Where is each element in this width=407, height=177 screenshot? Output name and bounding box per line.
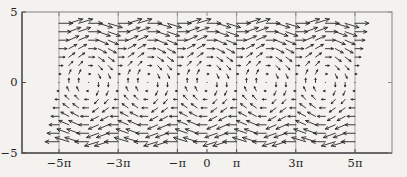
- quiver-arrow: [118, 56, 124, 58]
- quiver-arrow: [187, 120, 197, 124]
- quiver-arrow: [314, 132, 326, 135]
- quiver-arrow: [229, 115, 237, 117]
- quiver-arrow: [266, 21, 280, 25]
- quiver-arrow: [331, 99, 335, 103]
- quiver-arrow: [79, 61, 83, 65]
- quiver-arrow: [148, 65, 152, 66]
- quiver-arrow: [171, 107, 177, 109]
- quiver-arrow: [137, 78, 138, 82]
- quiver-arrow: [223, 99, 227, 103]
- quiver-arrow: [345, 49, 353, 53]
- quiver-arrow: [187, 27, 199, 32]
- quiver-arrow: [355, 21, 369, 25]
- quiver-arrow: [177, 73, 179, 74]
- quiver-arrow: [59, 21, 73, 25]
- quiver-arrow: [128, 53, 134, 57]
- quiver-dot: [118, 82, 119, 83]
- quiver-arrow: [276, 49, 284, 53]
- quiver-arrow: [325, 56, 331, 58]
- quiver-arrow: [61, 112, 69, 116]
- quiver-arrow: [280, 108, 286, 112]
- quiver-arrow: [148, 48, 156, 50]
- quiver-arrow: [87, 90, 89, 91]
- quiver-arrow: [199, 115, 207, 117]
- quiver-arrow: [325, 73, 327, 74]
- quiver-arrow: [138, 36, 148, 40]
- quiver-arrow: [196, 78, 197, 82]
- quiver-arrow: [69, 70, 71, 74]
- quiver-arrow: [227, 74, 229, 78]
- quiver-arrow: [156, 133, 168, 138]
- quiver-arrow: [227, 49, 235, 53]
- quiver-arrow: [152, 108, 158, 112]
- quiver-arrow: [130, 112, 138, 116]
- quiver-arrow: [294, 90, 296, 91]
- quiver-arrow: [237, 48, 245, 50]
- quiver-arrow: [108, 83, 109, 87]
- quiver-arrow: [118, 21, 132, 25]
- quiver-arrow: [335, 83, 336, 87]
- quiver-arrow: [79, 124, 89, 127]
- quiver-arrow: [306, 53, 312, 57]
- quiver-arrow: [138, 70, 140, 74]
- quiver-arrow: [89, 21, 103, 25]
- quiver-arrow: [197, 53, 203, 57]
- quiver-arrow: [216, 83, 217, 87]
- quiver-arrow: [89, 65, 93, 66]
- quiver-arrow: [227, 124, 237, 127]
- quiver-arrow: [256, 124, 266, 127]
- quiver-arrow: [254, 87, 256, 91]
- quiver-arrow: [345, 57, 351, 61]
- quiver-arrow: [335, 57, 341, 61]
- quiver-arrow: [215, 91, 217, 95]
- quiver-arrow: [235, 90, 237, 91]
- quiver-arrow: [306, 27, 318, 32]
- x-tick-label: 3π: [288, 156, 303, 170]
- quiver-arrow: [266, 39, 276, 42]
- quiver-arrow: [211, 108, 217, 112]
- quiver-arrow: [246, 27, 258, 32]
- quiver-arrow: [333, 91, 335, 95]
- quiver-arrow: [197, 44, 205, 48]
- quiver-arrow: [59, 56, 65, 58]
- quiver-arrow: [140, 115, 148, 117]
- quiver-arrow: [108, 40, 118, 44]
- quiver-arrow: [154, 99, 158, 103]
- quiver-arrow: [345, 124, 355, 127]
- quiver-arrow: [286, 49, 294, 53]
- quiver-arrow: [126, 129, 138, 134]
- quiver-arrow: [264, 90, 266, 91]
- quiver-arrow: [138, 53, 144, 57]
- quiver-arrow: [124, 95, 128, 99]
- quiver-arrow: [98, 83, 99, 87]
- quiver-arrow: [79, 70, 81, 74]
- quiver-arrow: [116, 90, 118, 91]
- quiver-arrow: [341, 140, 355, 144]
- quiver-arrow: [266, 65, 270, 66]
- quiver-arrow: [160, 116, 168, 120]
- quiver-arrow: [98, 49, 106, 53]
- quiver-arrow: [266, 48, 274, 50]
- quiver-arrow: [69, 61, 73, 65]
- quiver-arrow: [122, 104, 128, 108]
- quiver-arrow: [286, 124, 296, 127]
- quiver-arrow: [256, 53, 262, 57]
- quiver-dot: [206, 82, 207, 83]
- y-tick-label: 0: [10, 75, 17, 89]
- quiver-arrow: [185, 87, 187, 91]
- quiver-arrow: [166, 132, 178, 135]
- quiver-arrow: [183, 95, 187, 99]
- quiver-arrow: [275, 83, 276, 87]
- quiver-arrow: [81, 115, 89, 117]
- quiver-arrow: [104, 140, 118, 144]
- quiver-arrow: [227, 57, 233, 61]
- quiver-arrow: [223, 140, 237, 144]
- quiver-arrow: [59, 48, 67, 50]
- quiver-arrow: [142, 107, 148, 109]
- quiver-arrow: [106, 132, 118, 135]
- quiver-arrow: [325, 39, 335, 42]
- quiver-arrow: [278, 116, 286, 120]
- x-tick-label: 0: [203, 156, 210, 170]
- quiver-arrow: [250, 104, 256, 108]
- quiver-arrow: [207, 65, 211, 66]
